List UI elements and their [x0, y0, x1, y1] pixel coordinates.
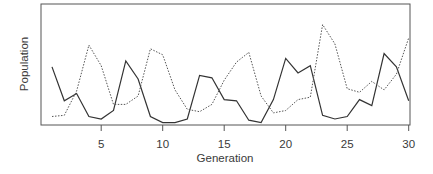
line-chart: 51015202530 Generation Population — [0, 0, 433, 174]
x-tick-label: 20 — [279, 138, 292, 150]
y-axis-label: Population — [18, 37, 30, 91]
series-layer — [52, 25, 409, 123]
dotted-series-line — [52, 25, 409, 117]
x-tick-label: 15 — [218, 138, 231, 150]
solid-series-line — [52, 54, 409, 123]
x-tick-label: 30 — [402, 138, 415, 150]
x-tick-label: 25 — [341, 138, 354, 150]
x-tick-label: 10 — [156, 138, 169, 150]
x-axis-ticks: 51015202530 — [98, 125, 415, 150]
x-axis-label: Generation — [197, 152, 254, 164]
x-tick-label: 5 — [98, 138, 104, 150]
